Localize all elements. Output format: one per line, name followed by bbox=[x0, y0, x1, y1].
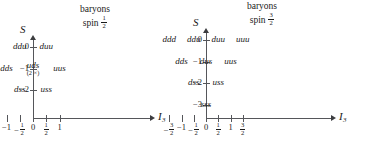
y-tick-label: −3 bbox=[182, 99, 202, 109]
panel-spin-half-baryons: baryonsspin 12SI30−1−2−1−120121dduduudds… bbox=[0, 0, 182, 148]
y-axis-label-S: S bbox=[193, 16, 199, 28]
x-tick bbox=[206, 115, 207, 122]
y-tick bbox=[203, 83, 210, 84]
state-label: duu bbox=[212, 34, 226, 44]
vertical-axis-arrow bbox=[203, 28, 209, 33]
x-tick-label: 1 bbox=[48, 122, 72, 132]
horizontal-axis-I3 bbox=[33, 118, 150, 119]
x-tick bbox=[33, 115, 34, 122]
x-tick bbox=[182, 115, 183, 122]
state-label: dds bbox=[175, 56, 188, 66]
state-label: uds(2 ×) bbox=[27, 60, 40, 77]
x-tick bbox=[7, 115, 8, 122]
horizontal-axis-arrow bbox=[150, 115, 155, 121]
x-axis-label-I3: I3 bbox=[339, 110, 346, 124]
panel-title-decuplet: baryonsspin 32 bbox=[207, 1, 317, 26]
panel-title-line1: baryons bbox=[45, 4, 145, 15]
x-tick bbox=[60, 115, 61, 122]
state-multiplicity: (2 ×) bbox=[27, 69, 40, 76]
y-axis-label-S: S bbox=[20, 23, 26, 35]
x-tick bbox=[231, 115, 232, 122]
panel-title-line1: baryons bbox=[207, 1, 317, 12]
state-label: uus bbox=[224, 56, 237, 66]
state-label: ddd bbox=[163, 34, 177, 44]
baryon-multiplet-figure: baryonsspin 12SI30−1−2−1−120121dduduudds… bbox=[0, 0, 365, 148]
panel-title-line2: spin 12 bbox=[45, 15, 145, 29]
panel-title-octet: baryonsspin 12 bbox=[45, 4, 145, 29]
y-tick bbox=[203, 40, 210, 41]
state-label: uss bbox=[212, 77, 224, 87]
y-tick bbox=[30, 47, 37, 48]
state-label: ddu bbox=[13, 41, 27, 51]
panel-spin-three-halves-baryons: baryonsspin 32SI30−1−2−3−32−1−12012132dd… bbox=[183, 0, 365, 148]
vertical-axis-S bbox=[33, 40, 34, 118]
state-label: sss bbox=[201, 99, 212, 109]
state-label: duu bbox=[40, 41, 54, 51]
state-label: dus bbox=[200, 56, 213, 66]
panel-title-line2: spin 32 bbox=[207, 12, 317, 26]
state-label: dss bbox=[188, 77, 200, 87]
state-label: uuu bbox=[236, 34, 250, 44]
state-label: dds bbox=[0, 63, 13, 73]
y-tick bbox=[30, 90, 37, 91]
state-label: uus bbox=[53, 63, 66, 73]
state-label: dss bbox=[14, 84, 26, 94]
horizontal-axis-arrow bbox=[331, 115, 336, 121]
vertical-axis-arrow bbox=[30, 35, 36, 40]
horizontal-axis-I3 bbox=[206, 118, 331, 119]
x-tick-label: 32 bbox=[231, 122, 255, 136]
state-label: ddu bbox=[187, 34, 201, 44]
state-label: uss bbox=[40, 84, 52, 94]
